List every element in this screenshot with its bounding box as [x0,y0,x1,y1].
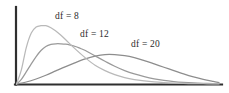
curve-df-12 [17,44,220,84]
curve-df-20 [17,54,220,84]
plot-area [0,0,229,93]
curve-label-df-8: df = 8 [55,11,79,21]
curve-label-df-12: df = 12 [80,29,109,39]
curve-label-df-20: df = 20 [131,39,160,49]
chi-square-distribution-figure: df = 8 df = 12 df = 20 [0,0,229,93]
